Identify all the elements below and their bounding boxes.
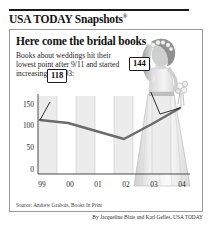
- data-label-144: 144: [129, 57, 150, 71]
- source-note: Source: Andrew Grabois, Books In Print: [16, 202, 102, 208]
- x-tick-04: 04: [178, 180, 186, 189]
- data-label-118: 118: [47, 69, 67, 83]
- masthead: USA TODAY Snapshots®: [9, 9, 189, 25]
- page-title: Here come the bridal books: [16, 35, 146, 47]
- snapshot-graphic: USA TODAY Snapshots® Here come the brida…: [0, 0, 214, 231]
- byline: By Jacqueline Blais and Karl Gelles, USA…: [92, 214, 203, 220]
- x-tick-03: 03: [150, 180, 158, 189]
- x-tick-01: 01: [94, 180, 102, 189]
- chart-panel: Here come the bridal books Books about w…: [9, 29, 203, 212]
- x-tick-00: 00: [66, 180, 74, 189]
- line-chart: 150 100 50 0 99 00 01 02 03 04: [10, 92, 202, 194]
- x-tick-02: 02: [122, 180, 130, 189]
- chart-grid-bands: [38, 96, 171, 174]
- masthead-title: USA TODAY Snapshots®: [9, 13, 189, 25]
- y-tick-100: 100: [23, 121, 34, 130]
- x-tick-99: 99: [38, 180, 46, 189]
- masthead-title-text: USA TODAY Snapshots: [9, 13, 123, 25]
- masthead-rule: [9, 9, 189, 11]
- chart-subtitle: Books about weddings hit their lowest po…: [16, 51, 132, 79]
- y-tick-150: 150: [23, 100, 34, 109]
- y-tick-50: 50: [27, 143, 35, 152]
- registered-mark-icon: ®: [123, 13, 127, 19]
- y-tick-0: 0: [30, 165, 34, 174]
